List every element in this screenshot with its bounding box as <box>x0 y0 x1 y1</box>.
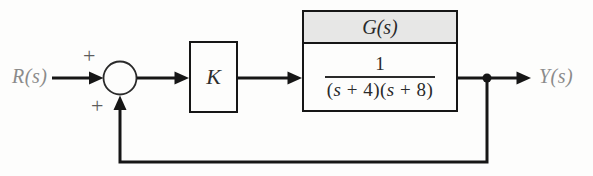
denominator-part: + 4)( <box>341 79 386 100</box>
gain-block: K <box>189 41 238 113</box>
fraction-numerator: 1 <box>325 53 436 78</box>
input-arrowhead-icon <box>89 72 104 85</box>
plant-block-title: G(s) <box>362 16 398 39</box>
plant-block-header: G(s) <box>304 12 456 44</box>
feedback-block-diagram: R(s) Y(s) + + K G(s) 1 (s + 4)(s + 8) <box>0 0 593 176</box>
plant-block: G(s) 1 (s + 4)(s + 8) <box>302 10 458 112</box>
plus-sign-bottom: + <box>91 96 103 116</box>
denominator-part: + 8) <box>395 79 434 100</box>
denominator-part: s <box>387 79 395 100</box>
denominator-part: ( <box>327 79 334 100</box>
gain-arrowhead-icon <box>175 72 190 85</box>
input-signal-label: R(s) <box>12 65 47 88</box>
fraction-denominator: (s + 4)(s + 8) <box>325 78 436 101</box>
transfer-function-fraction: 1 (s + 4)(s + 8) <box>325 53 436 101</box>
diagram-wires <box>0 0 593 176</box>
plus-sign-top: + <box>83 46 95 66</box>
summing-junction <box>104 62 137 95</box>
plant-block-body: 1 (s + 4)(s + 8) <box>304 44 456 110</box>
gain-block-label: K <box>206 64 221 90</box>
output-arrowhead-icon <box>517 72 532 85</box>
output-signal-label: Y(s) <box>539 65 573 88</box>
feedback-arrowhead-icon <box>114 96 127 111</box>
plant-arrowhead-icon <box>288 72 303 85</box>
